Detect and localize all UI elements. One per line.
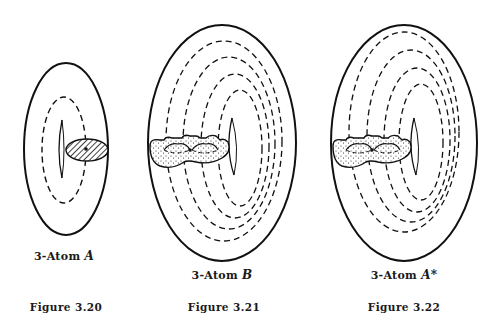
caption-figure-3-21: Figure 3.21 [188, 301, 260, 313]
caption-figure-3-22: Figure 3.22 [368, 301, 440, 313]
atom-b-symbol: B [242, 268, 252, 282]
caption-figure-3-20: Figure 3.20 [30, 301, 102, 313]
atom-a-label: 3-Atom A [34, 249, 94, 263]
atom-a-star-diagram [331, 25, 477, 261]
atom-a-star-symbol: A* [421, 268, 437, 282]
dashed-loops [349, 32, 459, 232]
singular-point [370, 148, 374, 152]
singular-point [188, 148, 192, 152]
atom-a-star-label: 3-Atom A* [371, 268, 438, 282]
torus-hole [59, 120, 62, 178]
atom-a-diagram [24, 63, 108, 235]
atom-a-symbol: A [84, 249, 94, 263]
atom-b-label: 3-Atom B [191, 268, 252, 282]
singular-point [84, 147, 88, 151]
atom-b-diagram [148, 25, 296, 261]
